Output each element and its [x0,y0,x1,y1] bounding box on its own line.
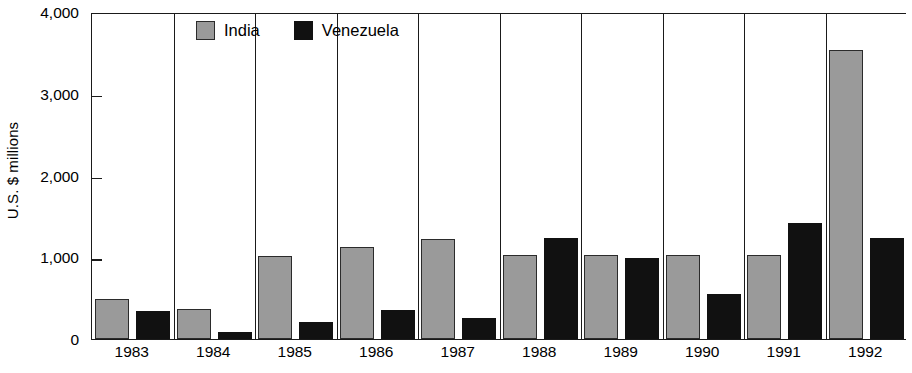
group-separator [418,14,419,339]
x-tick-label: 1992 [848,344,882,360]
x-tick-label: 1988 [522,344,556,360]
group-separator [826,14,827,339]
chart-legend: IndiaVenezuela [196,21,399,40]
x-tick-label: 1983 [115,344,149,360]
bar-india-1983 [95,299,129,339]
x-tick-label: 1987 [441,344,475,360]
y-tick-mark [92,259,102,261]
y-axis-title: U.S. $ millions [0,0,26,340]
bar-india-1984 [177,309,211,339]
group-separator [581,14,582,339]
bar-venezuela-1990 [707,294,741,339]
y-tick-label: 0 [70,332,79,348]
plot-area [91,13,906,340]
bar-india-1989 [584,255,618,339]
bar-venezuela-1984 [218,332,252,339]
legend-item-venezuela: Venezuela [294,21,399,40]
bar-india-1992 [829,50,863,339]
bar-venezuela-1983 [136,311,170,339]
y-tick-label: 4,000 [40,5,79,21]
x-axis-tick-labels: 1983198419851986198719881989199019911992 [91,344,906,372]
y-tick-label: 3,000 [40,87,79,103]
y-axis-title-text: U.S. $ millions [5,121,22,218]
bar-india-1991 [747,255,781,339]
y-tick-mark [92,96,102,98]
bar-india-1990 [666,255,700,339]
x-tick-label: 1984 [196,344,230,360]
bar-venezuela-1992 [870,238,904,339]
venezuela-swatch [294,21,313,40]
india-swatch [196,21,215,40]
bar-venezuela-1988 [544,238,578,339]
x-tick-label: 1989 [604,344,638,360]
bar-india-1986 [340,247,374,339]
y-axis-tick-labels: 01,0002,0003,0004,000 [26,0,85,373]
bar-india-1987 [421,239,455,339]
bar-venezuela-1989 [625,258,659,339]
legend-label: India [224,21,260,40]
bar-chart: U.S. $ millions 01,0002,0003,0004,000 In… [0,0,912,373]
bar-venezuela-1985 [299,322,333,339]
group-separator [255,14,256,339]
bar-venezuela-1991 [788,223,822,339]
x-tick-label: 1986 [359,344,393,360]
y-tick-mark [92,178,102,180]
bar-india-1985 [258,256,292,339]
x-tick-label: 1985 [278,344,312,360]
legend-item-india: India [196,21,260,40]
bar-india-1988 [503,255,537,339]
group-separator [663,14,664,339]
group-separator [744,14,745,339]
y-tick-label: 1,000 [40,251,79,267]
group-separator [500,14,501,339]
y-tick-label: 2,000 [40,169,79,185]
group-separator [337,14,338,339]
bar-venezuela-1986 [381,310,415,339]
x-tick-label: 1990 [685,344,719,360]
group-separator [174,14,175,339]
bar-venezuela-1987 [462,318,496,339]
legend-label: Venezuela [322,21,399,40]
x-tick-label: 1991 [767,344,801,360]
